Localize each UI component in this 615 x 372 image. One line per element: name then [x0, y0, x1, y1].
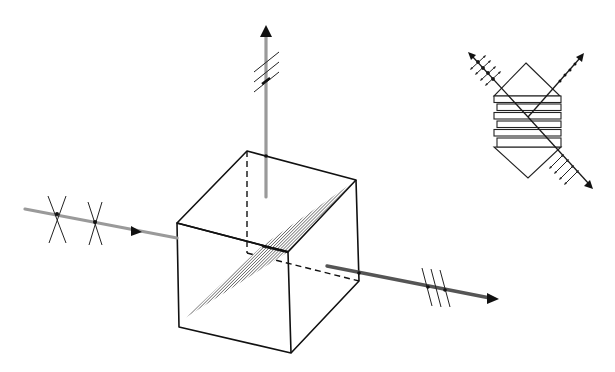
- coating-plane: [185, 183, 352, 318]
- unpolarized-marks: [48, 196, 102, 245]
- inset-bottom-prism: [494, 147, 561, 178]
- arrowhead-icon: [487, 293, 499, 304]
- multilayer-inset: [468, 52, 593, 189]
- input-beam: [25, 196, 177, 245]
- inset-transmitted-polarization-marks: [550, 155, 578, 184]
- arrowhead-icon: [260, 25, 272, 37]
- thin-film-plates: [494, 96, 561, 147]
- transmitted-beam-line: [327, 266, 490, 298]
- p-polarization-marks: [422, 268, 450, 307]
- reflected-beam: [254, 25, 279, 197]
- input-beam-line: [25, 209, 177, 238]
- polarizing-beam-splitter-diagram: [0, 0, 615, 372]
